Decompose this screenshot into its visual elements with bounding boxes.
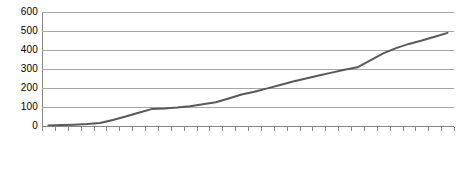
x-axis-tick-label: 1983 — [91, 169, 100, 170]
x-axis-tick-label: 1980 — [52, 169, 61, 170]
x-axis-tick-label: 2009 — [426, 169, 435, 170]
series-line-path — [48, 33, 447, 126]
x-axis-tick — [454, 127, 455, 131]
x-axis-tick-label: 1989 — [168, 169, 177, 170]
x-axis-tick-label: 1997 — [271, 169, 280, 170]
y-axis-tick-label: 500 — [0, 26, 38, 36]
x-axis-tick-label: 1994 — [233, 169, 242, 170]
x-axis-tick-label: 2008 — [413, 169, 422, 170]
x-axis-tick-label: 1998 — [284, 169, 293, 170]
line-chart: 0100200300400500600 19801981198219831984… — [0, 0, 461, 170]
y-axis-tick-label: 400 — [0, 45, 38, 55]
plot-area — [42, 12, 454, 126]
x-axis-tick-label: 1986 — [130, 169, 139, 170]
x-axis-tick-label: 2000 — [310, 169, 319, 170]
x-axis-tick-label: 1984 — [104, 169, 113, 170]
x-axis-tick-label: 1990 — [181, 169, 190, 170]
y-axis-tick-label: 300 — [0, 64, 38, 74]
x-axis-tick-label: 2010 — [439, 169, 448, 170]
x-axis-tick-labels: 1980198119821983198419851986198719881989… — [42, 131, 454, 170]
x-axis-tick-label: 2001 — [323, 169, 332, 170]
x-axis-tick-label: 1996 — [258, 169, 267, 170]
y-axis-tick-label: 100 — [0, 102, 38, 112]
x-axis-tick-label: 1999 — [297, 169, 306, 170]
x-axis-tick-label: 1992 — [207, 169, 216, 170]
series-line-svg — [42, 12, 454, 126]
x-axis-tick-label: 1993 — [220, 169, 229, 170]
x-axis-tick-label: 2002 — [336, 169, 345, 170]
y-axis-tick-label: 200 — [0, 83, 38, 93]
x-axis-tick-label: 2005 — [374, 169, 383, 170]
x-axis-tick-label: 2007 — [400, 169, 409, 170]
y-axis-tick-labels: 0100200300400500600 — [0, 0, 38, 170]
x-axis-tick-label: 2003 — [349, 169, 358, 170]
x-axis-tick-label: 2006 — [387, 169, 396, 170]
x-axis-tick-label: 1982 — [78, 169, 87, 170]
y-axis-tick-label: 0 — [0, 121, 38, 131]
x-axis-tick-label: 1987 — [143, 169, 152, 170]
x-axis-tick-label: 1985 — [117, 169, 126, 170]
x-axis-tick-label: 2004 — [361, 169, 370, 170]
x-axis-tick-label: 1991 — [194, 169, 203, 170]
x-axis-tick-label: 1988 — [155, 169, 164, 170]
x-axis-tick-label: 2011 — [452, 169, 461, 170]
x-axis-tick-label: 1995 — [246, 169, 255, 170]
y-axis-tick-label: 600 — [0, 7, 38, 17]
x-axis-tick-label: 1981 — [65, 169, 74, 170]
